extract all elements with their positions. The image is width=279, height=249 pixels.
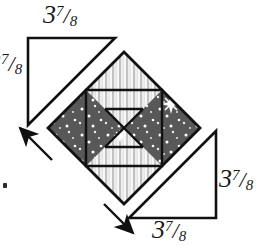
label-top-denominator: 8	[70, 13, 78, 29]
label-right-denominator: 8	[246, 177, 254, 193]
dimension-label-top: 37/8	[43, 2, 77, 29]
dimension-label-bottom: 37/8	[152, 217, 186, 244]
arrow-upper-left	[20, 128, 52, 160]
label-top-whole: 3	[43, 0, 56, 29]
label-bottom-numerator: 7	[165, 218, 173, 234]
dimension-label-left: 37/8	[0, 50, 22, 77]
dimension-label-right: 37/8	[219, 166, 253, 193]
scan-artifact-speck	[3, 183, 7, 188]
label-right-numerator: 7	[232, 167, 240, 183]
label-top-numerator: 7	[56, 3, 64, 19]
label-bottom-whole: 3	[152, 215, 165, 244]
label-left-denominator: 8	[15, 61, 23, 77]
label-left-numerator: 7	[1, 51, 9, 67]
label-right-whole: 3	[219, 164, 232, 193]
label-bottom-denominator: 8	[179, 228, 187, 244]
quilt-diagram-canvas: 37/8 37/8 37/8 37/8	[0, 0, 279, 249]
quilt-diagram-svg	[0, 0, 279, 249]
